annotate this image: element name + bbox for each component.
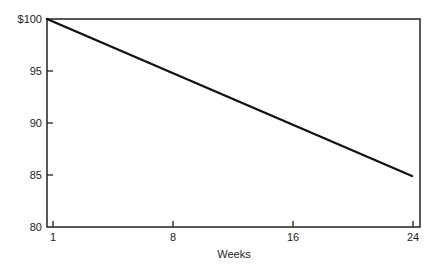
x-axis-label: Weeks — [217, 248, 251, 260]
y-tick-label: 90 — [30, 117, 42, 129]
x-tick-label: 8 — [170, 231, 176, 243]
y-tick-label: 80 — [30, 221, 42, 233]
chart: $100 95 90 85 80 1 8 16 24 Weeks — [0, 0, 445, 269]
x-tick-label: 16 — [287, 231, 299, 243]
x-tick-label: 1 — [50, 231, 56, 243]
y-tick-label: 85 — [30, 169, 42, 181]
plot-frame — [47, 19, 420, 227]
data-line — [47, 19, 412, 176]
y-tick-label: $100 — [18, 13, 42, 25]
x-tick-label: 24 — [407, 231, 419, 243]
y-tick-label: 95 — [30, 65, 42, 77]
